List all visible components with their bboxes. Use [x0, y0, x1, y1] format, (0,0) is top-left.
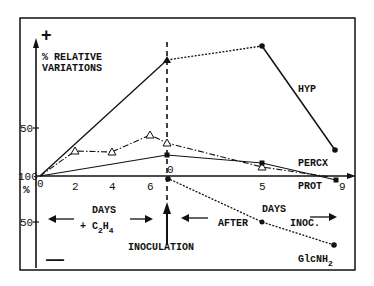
- y-label-percent: %: [42, 52, 48, 63]
- after-right-arrow-icon: [329, 213, 337, 221]
- after-label: AFTER: [218, 218, 248, 229]
- y-label-line2: VARIATIONS: [42, 63, 102, 74]
- y-tick-50-pos: 50: [20, 123, 33, 135]
- chart-canvas: + — % RELATIVE VARIATIONS 50 50 100 % 0 …: [0, 0, 374, 286]
- after-left-arrow-icon: [181, 214, 189, 222]
- x-tick-before-4: 4: [109, 181, 116, 193]
- series-hyp-line-c: [262, 46, 335, 150]
- x-tick-after-5: 5: [259, 181, 266, 193]
- series-hyp-line-b: [167, 46, 262, 60]
- x-tick-before-6: 6: [147, 181, 154, 193]
- inoculation-arrow-icon: [163, 202, 171, 214]
- before-right-arrow-icon: [145, 215, 153, 223]
- x-tick-after-9: 9: [339, 181, 346, 193]
- y-percent-sign: %: [23, 184, 30, 196]
- series-glcnh2-label: GlcNH2: [298, 254, 333, 268]
- x-tick-before-2: 2: [72, 181, 79, 193]
- x-tick-before-0: 0: [37, 178, 44, 190]
- y-axis-label: % RELATIVE: [42, 52, 102, 63]
- y-baseline-label: 100: [18, 171, 38, 183]
- inoculation-label: INOCULATION: [128, 242, 194, 253]
- before-treatment-label: + C2H4: [80, 221, 114, 235]
- y-minus-sign: —: [46, 249, 64, 269]
- series-percx-label: PERCX: [298, 158, 328, 169]
- y-axis-arrow-icon: [33, 38, 39, 48]
- y-tick-50-neg: 50: [20, 217, 33, 229]
- before-days-label: DAYS: [92, 205, 116, 216]
- series-hyp-label: HYP: [298, 84, 316, 95]
- series-prot-label: PROT: [298, 181, 322, 192]
- y-plus-sign: +: [41, 25, 52, 45]
- after-inoc-label: INOC.: [290, 218, 320, 229]
- before-left-arrow-icon: [48, 215, 56, 223]
- after-days-label: DAYS: [262, 204, 286, 215]
- y-label-line1: RELATIVE: [54, 52, 102, 63]
- x-tick-after-0: 0: [167, 164, 174, 176]
